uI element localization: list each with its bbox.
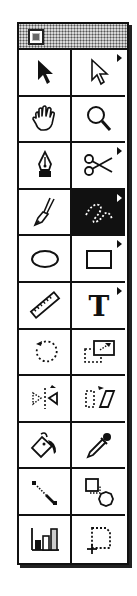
auto-trace-icon — [82, 475, 116, 509]
hollow-arrow-icon — [82, 55, 116, 89]
tool-rotate[interactable] — [19, 330, 72, 377]
tool-reflect[interactable] — [19, 376, 72, 423]
type-icon: T — [82, 288, 116, 322]
popup-triangle-icon — [117, 240, 122, 248]
tool-palette: T — [17, 22, 129, 565]
tool-graph[interactable] — [19, 516, 72, 563]
tool-auto-trace[interactable] — [72, 469, 125, 516]
ruler-icon — [28, 288, 62, 322]
tool-oval[interactable] — [19, 236, 72, 283]
paint-bucket-icon — [28, 428, 62, 462]
tool-hand[interactable] — [19, 97, 72, 144]
popup-triangle-icon — [117, 287, 122, 295]
palette-titlebar[interactable] — [19, 24, 127, 50]
shear-icon — [82, 381, 116, 415]
oval-icon — [28, 242, 62, 276]
tool-freehand[interactable] — [72, 190, 125, 237]
bar-graph-icon — [28, 522, 62, 556]
tool-measure[interactable] — [19, 283, 72, 330]
tool-shear[interactable] — [72, 376, 125, 423]
tool-eyedropper[interactable] — [72, 423, 125, 470]
tool-type[interactable]: T — [72, 283, 125, 330]
freehand-icon — [82, 195, 116, 229]
tool-grid: T — [19, 50, 127, 563]
scissors-icon — [82, 148, 116, 182]
popup-triangle-icon — [117, 194, 122, 202]
scale-icon — [82, 335, 116, 369]
tool-paint-bucket[interactable] — [19, 423, 72, 470]
popup-triangle-icon — [117, 54, 122, 62]
tool-page[interactable] — [72, 516, 125, 563]
reflect-icon — [28, 381, 62, 415]
pen-nib-icon — [28, 148, 62, 182]
brush-icon — [28, 195, 62, 229]
rotate-icon — [28, 335, 62, 369]
page-icon — [82, 522, 116, 556]
arrow-icon — [28, 55, 62, 89]
tool-selection[interactable] — [19, 50, 72, 97]
tool-scale[interactable] — [72, 330, 125, 377]
close-box-icon[interactable] — [28, 29, 44, 45]
hand-icon — [28, 102, 62, 136]
tool-pen[interactable] — [19, 143, 72, 190]
rectangle-icon — [82, 242, 116, 276]
eyedropper-icon — [82, 428, 116, 462]
svg-text:T: T — [88, 290, 109, 322]
tool-direct-selection[interactable] — [72, 50, 125, 97]
tool-rectangle[interactable] — [72, 236, 125, 283]
tool-blend[interactable] — [19, 469, 72, 516]
tool-zoom[interactable] — [72, 97, 125, 144]
tool-brush[interactable] — [19, 190, 72, 237]
magnifier-icon — [82, 102, 116, 136]
tool-scissors[interactable] — [72, 143, 125, 190]
popup-triangle-icon — [117, 147, 122, 155]
blend-line-icon — [28, 475, 62, 509]
